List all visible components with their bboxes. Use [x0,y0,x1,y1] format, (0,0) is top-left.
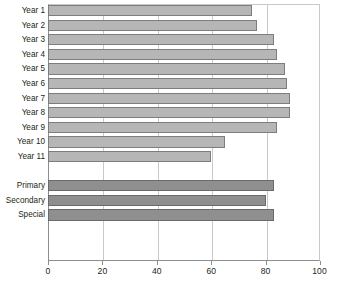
bar-row [48,77,320,90]
bars-group [48,4,320,261]
bar-chart: Year 1 Year 2 Year 3 Year 4 Year 5 Year … [0,0,339,282]
bar-row [48,121,320,134]
bar-row [48,106,320,119]
x-tick-mark-40 [157,261,158,265]
bar-year-10 [48,136,225,147]
bar-row [48,48,320,61]
x-tick-label-100: 100 [312,266,326,277]
x-tick-mark-0 [48,261,49,265]
bar-year-4 [48,49,277,60]
x-tick-mark-20 [102,261,103,265]
x-tick-mark-100 [320,261,321,265]
y-label-year-7: Year 7 [0,92,45,105]
bar-year-5 [48,63,285,74]
bar-row [48,208,320,221]
bar-row [48,194,320,207]
bar-row [48,19,320,32]
x-tick-mark-60 [211,261,212,265]
bar-year-7 [48,93,290,104]
bar-row [48,62,320,75]
x-tick-mark-80 [266,261,267,265]
bar-row [48,92,320,105]
x-tick-label-40: 40 [152,266,162,277]
bar-row [48,150,320,163]
y-label-year-6: Year 6 [0,77,45,90]
bar-year-1 [48,5,252,16]
y-label-year-4: Year 4 [0,48,45,61]
y-label-year-5: Year 5 [0,62,45,75]
y-label-year-2: Year 2 [0,19,45,32]
bar-year-9 [48,122,277,133]
y-label-year-9: Year 9 [0,121,45,134]
bar-row [48,135,320,148]
y-label-special: Special [0,208,45,221]
x-axis: 0 20 40 60 80 100 [48,261,320,281]
y-label-year-3: Year 3 [0,33,45,46]
y-label-year-10: Year 10 [0,135,45,148]
y-label-secondary: Secondary [0,194,45,207]
y-label-year-8: Year 8 [0,106,45,119]
x-tick-label-0: 0 [46,266,51,277]
bar-row [48,4,320,17]
bar-year-8 [48,107,290,118]
bar-special [48,209,274,220]
x-tick-label-60: 60 [206,266,216,277]
x-tick-label-80: 80 [261,266,271,277]
bar-year-6 [48,78,287,89]
x-tick-label-20: 20 [98,266,108,277]
bar-secondary [48,195,266,206]
bar-primary [48,180,274,191]
y-label-primary: Primary [0,179,45,192]
bar-year-3 [48,34,274,45]
y-label-year-1: Year 1 [0,4,45,17]
y-label-year-11: Year 11 [0,150,45,163]
bar-row [48,179,320,192]
bar-year-11 [48,151,211,162]
y-axis-labels: Year 1 Year 2 Year 3 Year 4 Year 5 Year … [0,4,45,261]
bar-row [48,33,320,46]
bar-year-2 [48,20,257,31]
